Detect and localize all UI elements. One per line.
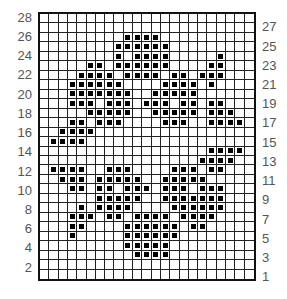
empty-grid-cell (189, 33, 198, 42)
filled-stitch-cell (142, 232, 151, 241)
filled-stitch-cell (217, 156, 226, 165)
filled-stitch-cell (77, 213, 86, 222)
filled-stitch-cell (180, 175, 189, 184)
row-number-label: 28 (18, 11, 32, 24)
empty-grid-cell (96, 213, 105, 222)
empty-grid-cell (198, 260, 207, 269)
filled-stitch-cell (152, 213, 161, 222)
empty-grid-cell (142, 165, 151, 174)
filled-stitch-cell (59, 165, 68, 174)
empty-grid-cell (40, 147, 49, 156)
empty-grid-cell (87, 232, 96, 241)
empty-grid-cell (226, 194, 235, 203)
filled-stitch-cell (161, 251, 170, 260)
filled-stitch-cell (96, 184, 105, 193)
empty-grid-cell (142, 14, 151, 23)
filled-stitch-cell (161, 52, 170, 61)
filled-stitch-cell (68, 80, 77, 89)
row-number-label: 23 (262, 59, 276, 72)
filled-stitch-cell (133, 213, 142, 222)
filled-stitch-cell (180, 165, 189, 174)
empty-grid-cell (124, 137, 133, 146)
empty-grid-cell (198, 23, 207, 32)
empty-grid-cell (217, 251, 226, 260)
filled-stitch-cell (68, 222, 77, 231)
filled-stitch-cell (114, 213, 123, 222)
empty-grid-cell (59, 251, 68, 260)
empty-grid-cell (235, 251, 244, 260)
empty-grid-cell (189, 232, 198, 241)
empty-grid-cell (198, 270, 207, 279)
empty-grid-cell (226, 175, 235, 184)
row-number-label: 9 (262, 193, 269, 206)
filled-stitch-cell (77, 71, 86, 80)
empty-grid-cell (207, 251, 216, 260)
filled-stitch-cell (180, 109, 189, 118)
empty-grid-cell (245, 203, 254, 212)
empty-grid-cell (189, 251, 198, 260)
empty-grid-cell (49, 42, 58, 51)
empty-grid-cell (68, 23, 77, 32)
empty-grid-cell (77, 251, 86, 260)
empty-grid-cell (87, 241, 96, 250)
filled-stitch-cell (142, 251, 151, 260)
empty-grid-cell (152, 194, 161, 203)
empty-grid-cell (59, 241, 68, 250)
empty-grid-cell (161, 270, 170, 279)
empty-grid-cell (198, 14, 207, 23)
empty-grid-cell (170, 33, 179, 42)
empty-grid-cell (49, 194, 58, 203)
filled-stitch-cell (105, 194, 114, 203)
filled-stitch-cell (198, 71, 207, 80)
filled-stitch-cell (87, 213, 96, 222)
filled-stitch-cell (226, 118, 235, 127)
empty-grid-cell (114, 222, 123, 231)
empty-grid-cell (235, 165, 244, 174)
empty-grid-cell (226, 203, 235, 212)
empty-grid-cell (226, 184, 235, 193)
filled-stitch-cell (207, 80, 216, 89)
empty-grid-cell (49, 213, 58, 222)
empty-grid-cell (226, 99, 235, 108)
filled-stitch-cell (161, 213, 170, 222)
filled-stitch-cell (96, 203, 105, 212)
filled-stitch-cell (124, 194, 133, 203)
empty-grid-cell (198, 118, 207, 127)
filled-stitch-cell (87, 99, 96, 108)
empty-grid-cell (180, 33, 189, 42)
filled-stitch-cell (105, 109, 114, 118)
pattern-chart: 282624222018161412108642 272523211917151… (0, 0, 287, 299)
filled-stitch-cell (142, 61, 151, 70)
empty-grid-cell (217, 42, 226, 51)
empty-grid-cell (96, 23, 105, 32)
empty-grid-cell (124, 260, 133, 269)
empty-grid-cell (207, 137, 216, 146)
empty-grid-cell (96, 232, 105, 241)
filled-stitch-cell (161, 80, 170, 89)
empty-grid-cell (245, 42, 254, 51)
empty-grid-cell (198, 165, 207, 174)
empty-grid-cell (235, 71, 244, 80)
filled-stitch-cell (124, 184, 133, 193)
empty-grid-cell (217, 270, 226, 279)
empty-grid-cell (40, 184, 49, 193)
empty-grid-cell (245, 61, 254, 70)
filled-stitch-cell (180, 90, 189, 99)
filled-stitch-cell (142, 99, 151, 108)
empty-grid-cell (142, 109, 151, 118)
empty-grid-cell (87, 147, 96, 156)
filled-stitch-cell (87, 128, 96, 137)
empty-grid-cell (96, 137, 105, 146)
empty-grid-cell (235, 61, 244, 70)
empty-grid-cell (124, 80, 133, 89)
empty-grid-cell (207, 222, 216, 231)
empty-grid-cell (40, 80, 49, 89)
empty-grid-cell (68, 194, 77, 203)
empty-grid-cell (105, 14, 114, 23)
row-number-label: 20 (18, 88, 32, 101)
empty-grid-cell (105, 33, 114, 42)
filled-stitch-cell (180, 213, 189, 222)
empty-grid-cell (226, 61, 235, 70)
filled-stitch-cell (49, 165, 58, 174)
empty-grid-cell (226, 80, 235, 89)
